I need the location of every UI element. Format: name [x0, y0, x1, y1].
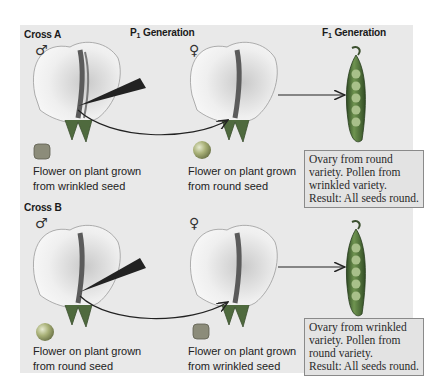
f1-generation-header: F1 Generation [322, 26, 386, 40]
wrinkled-seed-icon [193, 324, 209, 339]
female-symbol-icon: ♀ [189, 42, 199, 58]
pea-pod-a [346, 47, 365, 142]
cross-a-male-caption: Flower on plant grown from wrinkled seed [33, 164, 141, 194]
round-seed-icon [36, 323, 54, 341]
cross-b-male-caption: Flower on plant grown from round seed [33, 344, 141, 374]
pea-pod-b [346, 221, 365, 316]
cross-a-title: Cross A [24, 28, 61, 40]
male-flower-b [33, 225, 146, 327]
cross-b-female-caption: Flower on plant grown from wrinkled seed [188, 344, 296, 374]
wrinkled-seed-icon [34, 144, 50, 159]
female-flower-a [190, 42, 277, 142]
cross-b-title: Cross B [24, 201, 62, 213]
male-symbol-icon: ♂ [35, 215, 48, 231]
male-symbol-icon: ♂ [35, 42, 48, 58]
p1-generation-header: P1 Generation [130, 26, 195, 40]
round-seed-icon [193, 141, 211, 159]
cross-a-female-caption: Flower on plant grown from round seed [188, 164, 296, 194]
male-flower-a [33, 42, 146, 142]
cross-b-result-box: Ovary from wrinkled variety. Pollen from… [304, 318, 424, 376]
female-symbol-icon: ♀ [189, 215, 199, 231]
cross-a-result-box: Ovary from round variety. Pollen from wr… [304, 150, 424, 208]
